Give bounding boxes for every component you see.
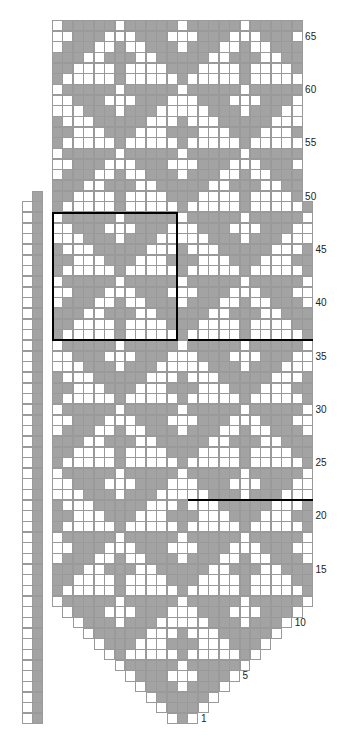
chart-cell <box>198 521 209 532</box>
chart-cell <box>167 478 178 489</box>
chart-cell <box>146 361 157 372</box>
chart-cell <box>115 148 126 159</box>
chart-cell <box>187 702 198 713</box>
chart-cell <box>250 638 261 649</box>
chart-cell <box>281 41 292 52</box>
chart-cell <box>187 276 198 287</box>
chart-cell <box>229 201 240 212</box>
chart-cell <box>219 606 230 617</box>
chart-cell <box>240 649 251 660</box>
chart-cell <box>167 127 178 138</box>
chart-cell <box>260 628 271 639</box>
chart-cell <box>167 137 178 148</box>
chart-cell <box>135 457 146 468</box>
chart-cell <box>292 447 303 458</box>
chart-cell <box>115 95 126 106</box>
chart-cell <box>229 52 240 63</box>
chart-cell <box>219 425 230 436</box>
chart-cell <box>156 574 167 585</box>
chart-cell <box>156 404 167 415</box>
chart-cell <box>94 20 105 31</box>
chart-cell <box>104 351 115 362</box>
row-label: 30 <box>316 405 327 415</box>
chart-cell <box>125 404 136 415</box>
chart-cell <box>167 606 178 617</box>
chart-cell <box>260 361 271 372</box>
chart-cell <box>187 95 198 106</box>
chart-cell <box>219 137 230 148</box>
chart-cell <box>281 500 292 511</box>
chart-cell <box>146 606 157 617</box>
row-label: 25 <box>316 458 327 468</box>
side-strip-cell <box>32 340 43 351</box>
chart-cell <box>62 457 73 468</box>
side-strip-cell <box>22 692 33 703</box>
chart-cell <box>104 201 115 212</box>
side-strip-cell <box>32 596 43 607</box>
chart-cell <box>198 478 209 489</box>
chart-cell <box>281 351 292 362</box>
chart-cell <box>73 436 84 447</box>
chart-cell <box>208 361 219 372</box>
chart-cell <box>73 340 84 351</box>
chart-cell <box>115 31 126 42</box>
chart-cell <box>156 393 167 404</box>
side-strip-cell <box>32 308 43 319</box>
chart-cell <box>187 478 198 489</box>
chart-cell <box>94 606 105 617</box>
chart-cell <box>62 137 73 148</box>
chart-cell <box>281 191 292 202</box>
chart-cell <box>94 468 105 479</box>
chart-cell <box>240 628 251 639</box>
chart-cell <box>302 340 313 351</box>
chart-cell <box>187 137 198 148</box>
chart-cell <box>292 31 303 42</box>
chart-cell <box>260 415 271 426</box>
chart-cell <box>271 244 282 255</box>
chart-cell <box>187 606 198 617</box>
chart-cell <box>198 425 209 436</box>
chart-cell <box>281 169 292 180</box>
chart-cell <box>125 447 136 458</box>
chart-cell <box>260 393 271 404</box>
chart-cell <box>198 361 209 372</box>
chart-cell <box>146 159 157 170</box>
chart-cell <box>94 574 105 585</box>
chart-cell <box>198 553 209 564</box>
side-strip-cell <box>32 255 43 266</box>
chart-cell <box>146 542 157 553</box>
chart-cell <box>229 233 240 244</box>
chart-cell <box>240 52 251 63</box>
chart-cell <box>240 287 251 298</box>
chart-cell <box>135 201 146 212</box>
chart-cell <box>73 606 84 617</box>
chart-cell <box>83 52 94 63</box>
chart-cell <box>240 478 251 489</box>
chart-cell <box>240 169 251 180</box>
chart-cell <box>302 553 313 564</box>
side-strip-cell <box>22 319 33 330</box>
chart-cell <box>167 201 178 212</box>
chart-cell <box>208 244 219 255</box>
chart-cell <box>240 436 251 447</box>
chart-cell <box>208 510 219 521</box>
chart-cell <box>292 585 303 596</box>
chart-cell <box>198 201 209 212</box>
chart-cell <box>281 574 292 585</box>
chart-cell <box>94 510 105 521</box>
chart-cell <box>177 542 188 553</box>
chart-cell <box>177 191 188 202</box>
chart-cell <box>219 41 230 52</box>
chart-cell <box>240 148 251 159</box>
chart-cell <box>219 116 230 127</box>
side-strip-cell <box>32 660 43 671</box>
chart-cell <box>125 180 136 191</box>
chart-cell <box>125 542 136 553</box>
chart-cell <box>198 393 209 404</box>
chart-cell <box>208 532 219 543</box>
chart-cell <box>135 425 146 436</box>
chart-cell <box>167 148 178 159</box>
chart-cell <box>52 489 63 500</box>
chart-cell <box>83 383 94 394</box>
chart-cell <box>187 169 198 180</box>
